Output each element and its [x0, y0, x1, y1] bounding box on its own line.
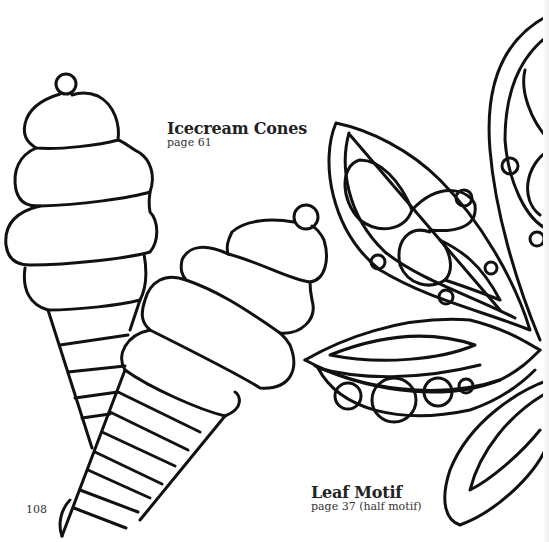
pattern-reference: page 61: [167, 137, 307, 149]
pattern-reference: page 37 (half motif): [311, 501, 422, 513]
pattern-book-page: Icecream Cones page 61 Leaf Motif page 3…: [0, 0, 549, 542]
icecream-cone-1-icon: [6, 74, 157, 448]
icecream-cone-2-icon: [60, 205, 326, 536]
pattern-title: Icecream Cones: [167, 120, 307, 137]
pattern-caption-leaf: Leaf Motif page 37 (half motif): [311, 484, 422, 513]
pattern-title: Leaf Motif: [311, 484, 422, 501]
line-art-canvas: [0, 0, 549, 542]
pattern-caption-icecream: Icecream Cones page 61: [167, 120, 307, 149]
leaf-motif-icon: [305, 15, 549, 525]
page-gutter-shadow: [543, 0, 549, 542]
page-number: 108: [26, 503, 47, 516]
